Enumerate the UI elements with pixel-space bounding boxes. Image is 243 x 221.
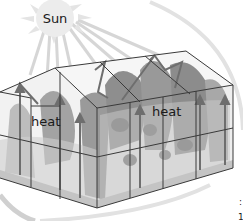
- heat-label-right: heat: [152, 104, 181, 119]
- sun-label: Sun: [43, 11, 68, 26]
- heat-label-left: heat: [31, 114, 60, 129]
- edge-fragment-1: :: [239, 197, 242, 207]
- edge-fragment-2: 1: [238, 212, 243, 221]
- background-arc-left: [0, 195, 35, 221]
- greenhouse-effect-diagram: Sun: [0, 0, 243, 221]
